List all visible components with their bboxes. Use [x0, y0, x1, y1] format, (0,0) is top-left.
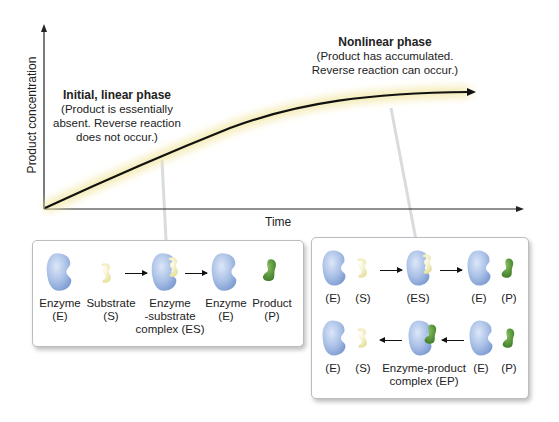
bound-substrate-icon: [166, 255, 180, 279]
x-axis-label: Time: [265, 215, 291, 229]
arrow-left-icon: [380, 340, 402, 341]
label-s: (S): [348, 292, 378, 305]
enzyme-icon: [320, 248, 348, 288]
arrow-right-icon: [380, 270, 402, 271]
curve-arrow-icon: [467, 88, 476, 96]
label-e: (E): [318, 362, 348, 375]
label-e: (E): [318, 292, 348, 305]
product-icon: [260, 257, 278, 283]
nonlinear-phase-title: Nonlinear phase: [305, 35, 465, 49]
nonlinear-phase-panel: (E) (S) (ES) (E) (P) (E) (S) Enzyme-prod…: [311, 237, 529, 399]
label-enzyme: Enzyme(E): [35, 297, 85, 323]
arrow-left-icon: [442, 340, 464, 341]
label-s: (S): [348, 362, 378, 375]
enzyme-icon: [467, 318, 495, 358]
initial-phase-title: Initial, linear phase: [52, 88, 182, 102]
initial-phase-annotation: Initial, linear phase (Product is essent…: [52, 88, 182, 144]
label-p: (P): [494, 292, 524, 305]
arrow-right-icon: [125, 273, 147, 274]
label-p: (P): [494, 362, 524, 375]
enzyme-icon: [465, 248, 493, 288]
label-e: (E): [464, 292, 494, 305]
product-icon: [499, 256, 515, 280]
callout-line-initial: [162, 160, 166, 240]
callout-line-nonlinear: [391, 108, 416, 240]
substrate-icon: [355, 256, 369, 280]
substrate-icon: [355, 326, 369, 350]
y-axis-label: Product concentration: [25, 45, 39, 185]
bound-substrate-icon: [420, 252, 434, 276]
arrow-right-icon: [440, 270, 462, 271]
label-es: (ES): [400, 292, 436, 305]
label-enzyme-product-complex: Enzyme-productcomplex (EP): [378, 362, 470, 388]
label-e: (E): [466, 362, 496, 375]
enzyme-icon: [209, 251, 239, 293]
label-enzyme-substrate-complex: Enzyme-substratecomplex (ES): [133, 297, 207, 336]
substrate-icon: [99, 261, 113, 285]
label-product: Product(P): [247, 297, 297, 323]
nonlinear-phase-annotation: Nonlinear phase (Product has accumulated…: [305, 35, 465, 77]
product-icon: [500, 326, 516, 350]
enzyme-icon: [320, 318, 348, 358]
initial-phase-panel: Enzyme(E) Substrate(S) Enzyme-substratec…: [32, 240, 304, 347]
enzyme-icon: [44, 251, 74, 293]
label-enzyme: Enzyme(E): [201, 297, 251, 323]
label-substrate: Substrate(S): [83, 297, 139, 323]
y-axis-arrow-icon: [41, 24, 47, 32]
x-axis-arrow-icon: [516, 206, 524, 212]
arrow-right-icon: [185, 273, 207, 274]
bound-product-icon: [422, 322, 438, 346]
